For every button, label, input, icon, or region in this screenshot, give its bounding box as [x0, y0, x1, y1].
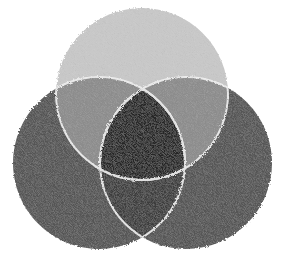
- venn-svg: [0, 0, 283, 275]
- venn-diagram: [0, 0, 283, 275]
